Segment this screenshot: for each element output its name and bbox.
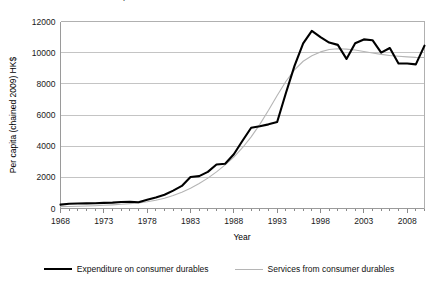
x-axis-tick-labels: 196819731978198319881993199820032008 — [51, 216, 417, 226]
y-tick-label: 2000 — [37, 172, 56, 182]
y-tick-label: 0 — [51, 204, 56, 214]
legend-label-expenditure: Expenditure on consumer durables — [77, 264, 209, 274]
legend-label-services: Services from consumer durables — [268, 264, 395, 274]
y-tick-label: 8000 — [37, 79, 56, 89]
x-tick-label: 1998 — [311, 216, 330, 226]
legend-item-services[interactable]: Services from consumer durables — [235, 264, 395, 274]
data-series — [61, 31, 425, 207]
series-line-expenditure — [61, 31, 425, 205]
x-tick-label: 2008 — [398, 216, 417, 226]
legend-line-icon-services — [235, 269, 263, 270]
legend-item-expenditure[interactable]: Expenditure on consumer durables — [44, 264, 209, 274]
x-tick-label: 1988 — [224, 216, 243, 226]
x-tick-label: 1993 — [268, 216, 287, 226]
chart-legend: Expenditure on consumer durables Service… — [0, 259, 438, 279]
series-line-services — [61, 49, 425, 207]
legend-line-icon-expenditure — [44, 268, 72, 270]
x-tick-label: 1983 — [181, 216, 200, 226]
x-axis-ticks — [61, 209, 425, 213]
y-tick-label: 10000 — [32, 48, 56, 58]
chart-container: Expenditure on and services from consume… — [0, 0, 438, 288]
gridlines — [61, 22, 425, 178]
x-tick-label: 2003 — [354, 216, 373, 226]
x-tick-label: 1973 — [94, 216, 113, 226]
y-axis-title: Per capita (chained 2009) HK$ — [8, 57, 18, 174]
y-axis-tick-labels: 020004000600080001000012000 — [32, 17, 56, 214]
y-tick-label: 6000 — [37, 110, 56, 120]
x-axis-title: Year — [233, 232, 250, 242]
y-tick-label: 4000 — [37, 141, 56, 151]
x-tick-label: 1968 — [51, 216, 70, 226]
y-tick-label: 12000 — [32, 17, 56, 27]
chart-plot-area: 020004000600080001000012000 196819731978… — [0, 0, 438, 258]
x-tick-label: 1978 — [138, 216, 157, 226]
